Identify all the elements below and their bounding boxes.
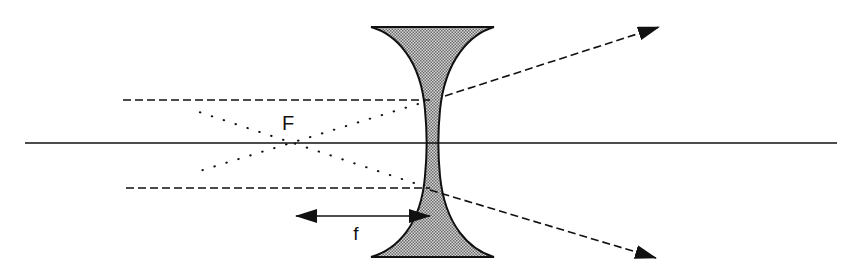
diverging-lens-diagram: F f <box>0 0 861 273</box>
refracted-ray-upper <box>445 27 659 96</box>
concave-lens <box>371 27 494 257</box>
virtual-extension-upper <box>193 104 418 173</box>
focal-point-label: F <box>282 112 294 134</box>
virtual-extension-lower <box>190 109 414 183</box>
focal-length-label: f <box>353 223 359 244</box>
